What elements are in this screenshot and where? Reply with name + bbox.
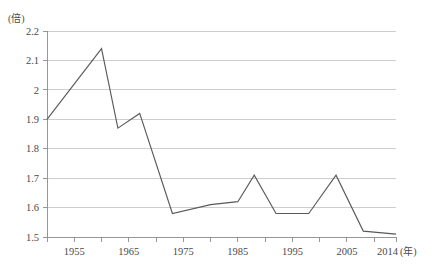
y-axis-unit-label: (倍) xyxy=(8,12,25,25)
y-tick-label: 2.2 xyxy=(26,26,39,37)
x-axis-tick-labels: 1955196519751985199520052014 xyxy=(64,246,399,257)
x-axis-unit-label: (年) xyxy=(400,245,417,258)
series-line xyxy=(47,49,396,234)
y-tick-label: 1.7 xyxy=(26,173,39,184)
y-axis-tick-labels: 1.51.61.71.81.922.12.2 xyxy=(26,26,47,243)
x-tick-label: 1965 xyxy=(118,246,139,257)
y-tick-label: 1.9 xyxy=(26,114,39,125)
x-tick-label: 2005 xyxy=(336,246,357,257)
data-series xyxy=(47,49,396,234)
y-tick-label: 1.5 xyxy=(26,232,39,243)
x-axis-tick-marks xyxy=(47,237,396,242)
y-tick-label: 2 xyxy=(34,85,39,96)
x-tick-label: 1985 xyxy=(227,246,248,257)
chart-canvas: (倍) 1.51.61.71.81.922.12.2 1955196519751… xyxy=(0,0,436,271)
x-tick-label: 1975 xyxy=(173,246,194,257)
x-tick-label: 2014 xyxy=(377,246,399,257)
y-tick-label: 2.1 xyxy=(26,55,39,66)
x-tick-label: 1995 xyxy=(282,246,303,257)
y-tick-label: 1.6 xyxy=(26,202,39,213)
y-tick-label: 1.8 xyxy=(26,143,39,154)
x-tick-label: 1955 xyxy=(64,246,85,257)
gridlines xyxy=(47,31,396,208)
line-chart: (倍) 1.51.61.71.81.922.12.2 1955196519751… xyxy=(0,0,436,271)
